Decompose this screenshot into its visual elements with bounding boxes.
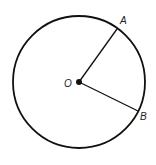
label-o: O [64, 78, 72, 89]
radius-oa [79, 29, 117, 82]
circle-diagram: O A B [0, 0, 156, 165]
radius-ob [79, 82, 138, 111]
label-a: A [119, 15, 127, 26]
center-point [76, 79, 82, 85]
label-b: B [140, 111, 147, 122]
